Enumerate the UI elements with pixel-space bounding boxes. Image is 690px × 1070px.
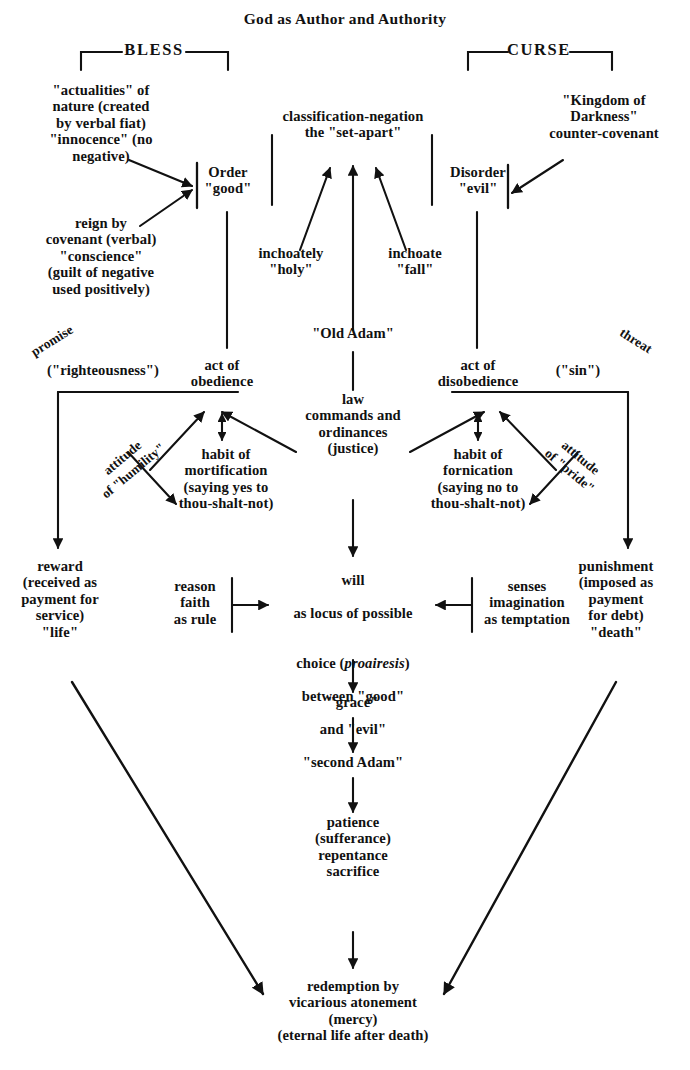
node-will: will as locus of possible choice (proair… xyxy=(238,556,468,754)
will-proairesis-term: proairesis xyxy=(345,655,405,671)
node-kingdom-of-darkness: "Kingdom of Darkness" counter-covenant xyxy=(518,92,690,141)
will-choice-close: ) xyxy=(405,655,410,671)
node-reign-by-covenant: reign by covenant (verbal) "conscience" … xyxy=(0,215,206,297)
node-actualities: "actualities" of nature (created by verb… xyxy=(1,82,201,164)
edge-holy-classification xyxy=(300,168,330,250)
will-line-1: will xyxy=(238,572,468,588)
node-old-adam: "Old Adam" xyxy=(278,325,428,341)
bless-bracket-label: BLESS xyxy=(94,41,214,60)
edge-fall-classification xyxy=(376,168,406,250)
node-order: Order "good" xyxy=(183,164,273,197)
node-senses-imagination: senses imagination as temptation xyxy=(467,578,587,627)
node-law: law commands and ordinances (justice) xyxy=(278,391,428,457)
node-inchoately-holy: inchoately "holy" xyxy=(236,245,346,278)
edge-reward-redemption xyxy=(72,682,263,994)
curse-bracket-label: CURSE xyxy=(479,41,599,60)
will-line-2: as locus of possible xyxy=(238,605,468,621)
node-act-of-obedience: act of obedience xyxy=(162,357,282,390)
node-second-adam: "second Adam" xyxy=(258,754,448,770)
node-classification-negation: classification-negation the "set-apart" xyxy=(238,108,468,141)
node-disorder: Disorder "evil" xyxy=(433,164,523,197)
node-inchoate-fall: inchoate "fall" xyxy=(360,245,470,278)
page-title: God as Author and Authority xyxy=(95,10,595,28)
node-act-of-disobedience: act of disobedience xyxy=(413,357,543,390)
node-reason-faith-as-rule: reason faith as rule xyxy=(152,578,238,627)
node-patience: patience (sufferance) repentance sacrifi… xyxy=(258,814,448,880)
label-righteousness: ("righteousness") xyxy=(23,362,183,378)
will-line-5: and "evil" xyxy=(238,721,468,737)
node-redemption: redemption by vicarious atonement (mercy… xyxy=(203,978,503,1044)
will-line-3: choice (proairesis) xyxy=(238,638,468,671)
label-sin: ("sin") xyxy=(538,362,618,378)
node-grace: "grace" xyxy=(278,694,428,710)
node-reward: reward (received as payment for service)… xyxy=(0,558,130,640)
will-choice-text: choice ( xyxy=(296,655,344,671)
edge-punishment-redemption xyxy=(444,682,616,994)
diagram-page: God as Author and Authority BLESS CURSE … xyxy=(0,0,690,1070)
